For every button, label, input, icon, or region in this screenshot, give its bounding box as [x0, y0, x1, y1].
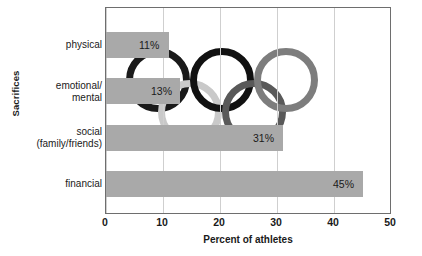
y-tick-label-financial: financial — [18, 178, 102, 190]
y-tick-label-social: social (family/friends) — [18, 126, 102, 149]
x-tick-20: 20 — [213, 216, 225, 228]
bar-value-label-financial: 45% — [333, 171, 354, 197]
y-tick-label-physical: physical — [18, 39, 102, 51]
x-tick-10: 10 — [156, 216, 168, 228]
bar-financial — [106, 171, 363, 197]
bar-chart: Sacrifices physical emotional/ mental so… — [0, 0, 422, 256]
x-tick-30: 30 — [270, 216, 282, 228]
y-tick-label-emotional-mental: emotional/ mental — [18, 80, 102, 103]
x-tick-0: 0 — [102, 216, 108, 228]
bar-series: 11% 13% 31% 45% — [106, 8, 391, 214]
bar-value-label-emotional-mental: 13% — [151, 78, 172, 104]
bar-physical — [106, 32, 169, 58]
bar-value-label-physical: 11% — [139, 32, 159, 58]
x-tick-50: 50 — [384, 216, 396, 228]
x-tick-40: 40 — [327, 216, 339, 228]
x-tick-labels: 0 10 20 30 40 50 — [105, 216, 391, 232]
x-axis-title: Percent of athletes — [105, 234, 391, 245]
y-tick-labels: physical emotional/ mental social (famil… — [18, 7, 102, 214]
bar-value-label-social: 31% — [253, 125, 274, 151]
plot-area: 11% 13% 31% 45% — [105, 7, 391, 214]
